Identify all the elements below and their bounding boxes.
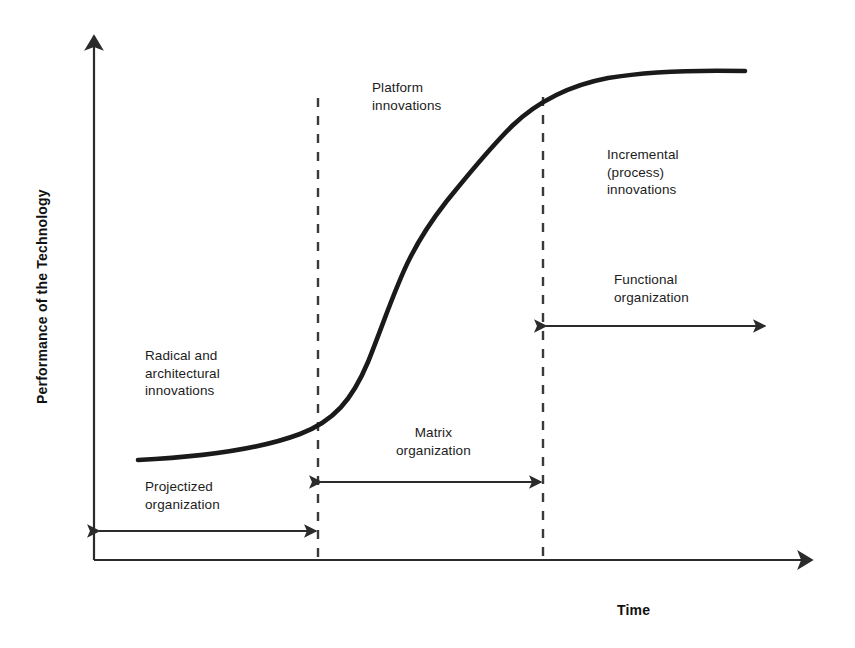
label-functional-organization: Functional organization (614, 271, 689, 306)
s-curve-path (138, 71, 745, 460)
technology-s-curve-diagram: Performance of the Technology Time Radic… (0, 0, 855, 648)
label-incremental-process-innovations: Incremental (process) innovations (607, 146, 679, 199)
x-axis-title: Time (617, 602, 650, 618)
label-platform-innovations: Platform innovations (372, 79, 441, 114)
label-matrix-organization: Matrix organization (396, 424, 471, 459)
label-radical-architectural-innovations: Radical and architectural innovations (145, 347, 220, 400)
y-axis-title: Performance of the Technology (34, 189, 50, 404)
label-projectized-organization: Projectized organization (145, 478, 220, 513)
